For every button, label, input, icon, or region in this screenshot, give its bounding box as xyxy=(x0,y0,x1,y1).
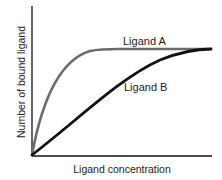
label-ligand-b: Ligand B xyxy=(124,81,167,93)
series-ligand-a-line xyxy=(32,49,211,155)
y-axis-label: Number of bound ligand xyxy=(15,26,27,138)
binding-curve-chart: Ligand A Ligand B Ligand concentration N… xyxy=(0,0,222,180)
series-ligand-b-line xyxy=(32,49,211,155)
x-axis-label: Ligand concentration xyxy=(73,163,171,175)
label-ligand-a: Ligand A xyxy=(123,35,166,47)
